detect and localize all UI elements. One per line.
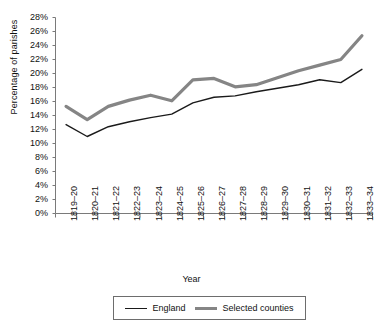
axis-lines [56, 18, 373, 214]
x-tick-label: 1825–26 [197, 185, 206, 220]
x-tick-label: 1831–32 [324, 185, 333, 220]
chart-legend: England Selected counties [113, 296, 306, 320]
x-tick-label: 1819–20 [70, 185, 79, 220]
y-tick-label: 8% [18, 153, 48, 162]
y-tick-label: 20% [18, 69, 48, 78]
legend-line-swatch-england [125, 308, 147, 309]
x-tick-label: 1821–22 [112, 185, 121, 220]
x-tick-label: 1828–29 [260, 185, 269, 220]
y-tick-label: 16% [18, 97, 48, 106]
x-tick-label: 1822–23 [133, 185, 142, 220]
x-tick-label: 1833–34 [366, 185, 375, 220]
y-tick-label: 0% [18, 209, 48, 218]
y-tick-label: 18% [18, 83, 48, 92]
x-tick-label: 1824–25 [176, 185, 185, 220]
x-tick-label: 1830–31 [303, 185, 312, 220]
y-tick-label: 14% [18, 111, 48, 120]
y-tick-label: 6% [18, 167, 48, 176]
legend-item-selected-counties: Selected counties [195, 303, 293, 313]
legend-label-england: England [152, 303, 185, 313]
y-tick-label: 2% [18, 195, 48, 204]
x-tick-label: 1823–24 [155, 185, 164, 220]
legend-item-england: England [125, 303, 185, 313]
legend-line-swatch-selected-counties [195, 307, 217, 310]
y-tick-label: 24% [18, 41, 48, 50]
data-series [66, 36, 362, 137]
x-tick-label: 1832–33 [345, 185, 354, 220]
legend-label-selected-counties: Selected counties [222, 303, 293, 313]
x-axis-title: Year [0, 274, 383, 284]
x-tick-label: 1826–27 [218, 185, 227, 220]
x-tick-label: 1829–30 [281, 185, 290, 220]
x-tick-label: 1827–28 [239, 185, 248, 220]
y-tick-label: 22% [18, 55, 48, 64]
line-chart: Percentage of parishes 0%2%4%6%8%10%12%1… [0, 0, 383, 329]
x-tick-label: 1820–21 [91, 185, 100, 220]
y-tick-label: 12% [18, 125, 48, 134]
y-tick-label: 26% [18, 27, 48, 36]
y-tick-label: 10% [18, 139, 48, 148]
y-tick-label: 28% [18, 13, 48, 22]
y-tick-label: 4% [18, 181, 48, 190]
